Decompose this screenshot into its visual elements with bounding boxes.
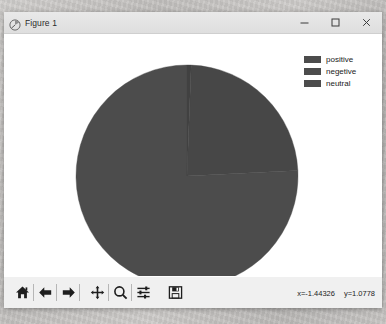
- toolbar-separator: [108, 284, 109, 301]
- pan-move-icon[interactable]: [87, 283, 107, 303]
- figure-window: Figure 1: [4, 12, 382, 308]
- figure-canvas[interactable]: positive negetive neutral: [4, 34, 382, 276]
- chart-legend: positive negetive neutral: [304, 55, 356, 88]
- save-disk-icon[interactable]: [165, 283, 185, 303]
- toolbar-separator: [131, 284, 132, 301]
- coordinate-y: y=1.0778: [344, 288, 375, 297]
- close-button[interactable]: [351, 12, 382, 33]
- matplotlib-figure-icon: [9, 17, 21, 29]
- legend-swatch-neutral: [304, 80, 321, 87]
- home-icon[interactable]: [12, 283, 32, 303]
- legend-item-positive: positive: [304, 55, 356, 64]
- maximize-button[interactable]: [320, 12, 351, 33]
- toolbar-separator: [79, 284, 80, 301]
- forward-arrow-icon[interactable]: [58, 283, 78, 303]
- legend-swatch-negetive: [304, 68, 321, 75]
- toolbar-separator: [56, 284, 57, 301]
- minimize-button[interactable]: [289, 12, 320, 33]
- configure-subplots-icon[interactable]: [133, 283, 153, 303]
- coordinate-x: x=-1.44326: [297, 288, 335, 297]
- zoom-rect-icon[interactable]: [110, 283, 130, 303]
- window-titlebar[interactable]: Figure 1: [4, 12, 382, 34]
- legend-label-neutral: neutral: [326, 79, 350, 88]
- window-controls: [289, 12, 382, 33]
- window-title: Figure 1: [25, 18, 57, 28]
- legend-label-negetive: negetive: [326, 67, 356, 76]
- back-arrow-icon[interactable]: [35, 283, 55, 303]
- coordinate-readout: x=-1.44326 y=1.0778: [297, 288, 375, 297]
- matplotlib-navigation-toolbar: x=-1.44326 y=1.0778: [4, 276, 382, 308]
- toolbar-separator: [33, 284, 34, 301]
- legend-item-neutral: neutral: [304, 79, 356, 88]
- legend-item-negetive: negetive: [304, 67, 356, 76]
- pie-wedge-negetive[interactable]: [187, 65, 298, 176]
- legend-swatch-positive: [304, 56, 321, 63]
- legend-label-positive: positive: [326, 55, 353, 64]
